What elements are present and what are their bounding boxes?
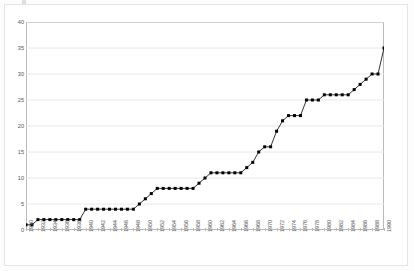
data-point-marker xyxy=(227,171,230,174)
x-tick-mark xyxy=(110,228,111,231)
data-point-marker xyxy=(114,208,117,211)
data-point-marker xyxy=(209,171,212,174)
x-tick-text: 1936 xyxy=(64,220,70,232)
x-tick-text: 1952 xyxy=(159,220,165,232)
x-tick-text: 1974 xyxy=(291,220,297,232)
x-tick-text: 1968 xyxy=(255,220,261,232)
x-tick-text: 1982 xyxy=(338,220,344,232)
x-tick-label: 1984 xyxy=(345,231,352,265)
x-tick-label: 1960 xyxy=(202,231,209,265)
data-point-marker xyxy=(251,161,254,164)
x-tick-mark xyxy=(193,228,194,231)
data-point-marker xyxy=(84,208,87,211)
data-point-marker xyxy=(221,171,224,174)
data-point-marker xyxy=(138,203,141,206)
data-point-marker xyxy=(305,99,308,102)
data-point-marker xyxy=(186,187,189,190)
x-tick-text: 1976 xyxy=(302,220,308,232)
x-tick-text: 1966 xyxy=(243,220,249,232)
x-tick-text: 1972 xyxy=(279,220,285,232)
y-tick-label: 25 xyxy=(2,97,24,103)
x-tick-text: 1962 xyxy=(219,220,225,232)
data-point-marker xyxy=(156,187,159,190)
x-tick-label: 1962 xyxy=(214,231,221,265)
data-point-marker xyxy=(204,177,207,180)
x-tick-mark xyxy=(86,228,87,231)
data-point-marker xyxy=(72,218,75,221)
x-tick-mark xyxy=(74,228,75,231)
x-tick-label: 1948 xyxy=(130,231,137,265)
x-tick-label: 1930 xyxy=(23,231,30,265)
x-tick-text: 1984 xyxy=(350,220,356,232)
x-tick-text: 1932 xyxy=(40,220,46,232)
x-tick-label: 1966 xyxy=(238,231,245,265)
x-tick-text: 1942 xyxy=(100,220,106,232)
x-tick-label: 1936 xyxy=(59,231,66,265)
x-tick-label: 1952 xyxy=(154,231,161,265)
data-point-marker xyxy=(90,208,93,211)
data-point-marker xyxy=(48,218,51,221)
x-tick-text: 1978 xyxy=(314,220,320,232)
data-point-marker xyxy=(353,88,356,91)
data-point-marker xyxy=(275,130,278,133)
data-point-marker xyxy=(365,78,368,81)
x-tick-mark xyxy=(26,228,27,231)
x-tick-label: 1980 xyxy=(321,231,328,265)
data-point-marker xyxy=(36,218,39,221)
x-tick-mark xyxy=(50,228,51,231)
x-tick-text: 1948 xyxy=(135,220,141,232)
x-tick-label: 1958 xyxy=(190,231,197,265)
x-tick-mark xyxy=(62,228,63,231)
x-tick-label: 1974 xyxy=(286,231,293,265)
data-point-marker xyxy=(263,145,266,148)
x-tick-text: 1960 xyxy=(207,220,213,232)
data-point-marker xyxy=(329,93,332,96)
x-tick-label: 1982 xyxy=(333,231,340,265)
data-point-marker xyxy=(383,47,385,50)
x-tick-label: 1956 xyxy=(178,231,185,265)
x-tick-label: 1978 xyxy=(309,231,316,265)
data-point-marker xyxy=(162,187,165,190)
x-tick-mark xyxy=(384,228,385,231)
data-point-marker xyxy=(126,208,129,211)
x-tick-label: 1970 xyxy=(262,231,269,265)
y-tick-label: 40 xyxy=(2,19,24,25)
data-point-marker xyxy=(102,208,105,211)
data-point-marker xyxy=(192,187,195,190)
x-tick-mark xyxy=(277,228,278,231)
data-point-marker xyxy=(287,114,290,117)
y-tick-label: 5 xyxy=(2,201,24,207)
x-tick-mark xyxy=(38,228,39,231)
y-tick-label: 35 xyxy=(2,45,24,51)
data-point-marker xyxy=(239,171,242,174)
data-point-marker xyxy=(293,114,296,117)
x-tick-label: 1950 xyxy=(142,231,149,265)
x-tick-mark xyxy=(205,228,206,231)
x-tick-text: 1986 xyxy=(362,220,368,232)
y-tick-label: 15 xyxy=(2,149,24,155)
x-tick-text: 1946 xyxy=(123,220,129,232)
data-point-marker xyxy=(60,218,63,221)
x-tick-label: 1946 xyxy=(118,231,125,265)
x-tick-label: 1932 xyxy=(35,231,42,265)
x-tick-text: 1970 xyxy=(267,220,273,232)
x-tick-label: 1990 xyxy=(381,231,388,265)
y-tick-label: 0 xyxy=(2,227,24,233)
data-line xyxy=(26,48,384,225)
x-tick-text: 1958 xyxy=(195,220,201,232)
y-tick-label: 10 xyxy=(2,175,24,181)
chart-screenshot: 0510152025303540 19301932193419361938194… xyxy=(0,0,414,271)
data-point-marker xyxy=(323,93,326,96)
x-tick-text: 1944 xyxy=(112,220,118,232)
data-point-marker xyxy=(108,208,111,211)
x-tick-label: 1964 xyxy=(226,231,233,265)
data-point-marker xyxy=(317,99,320,102)
data-point-marker xyxy=(150,192,153,195)
x-tick-mark xyxy=(265,228,266,231)
data-point-marker xyxy=(168,187,171,190)
x-tick-label: 1968 xyxy=(250,231,257,265)
y-tick-label: 20 xyxy=(2,123,24,129)
x-tick-label: 1938 xyxy=(71,231,78,265)
x-tick-text: 1938 xyxy=(76,220,82,232)
data-point-marker xyxy=(299,114,302,117)
